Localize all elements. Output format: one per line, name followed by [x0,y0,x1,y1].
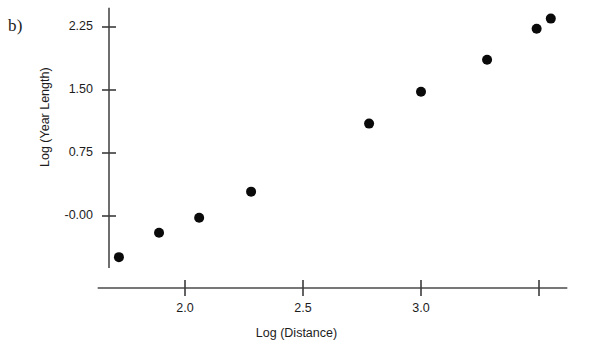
data-point [364,119,374,129]
x-tick-label: 2.0 [160,301,210,315]
data-point [482,55,492,65]
x-tick-label: 3.0 [396,301,446,315]
scatter-plot-figure: b) 2.251.500.75-0.00 2.02.53.0 Log (Dist… [0,0,593,354]
data-point [546,14,556,24]
tick-marks-group [102,27,539,296]
y-tick-label: 2.25 [41,19,93,33]
data-point [416,87,426,97]
data-point [154,228,164,238]
data-point [532,24,542,34]
data-point [114,252,124,262]
y-tick-label: -0.00 [41,208,93,222]
data-point [194,213,204,223]
data-points-group [114,14,556,263]
axes-group [98,8,568,288]
x-tick-label: 2.5 [278,301,328,315]
x-axis-title: Log (Distance) [0,326,593,340]
data-point [246,187,256,197]
y-axis-title: Log (Year Length) [38,67,52,167]
